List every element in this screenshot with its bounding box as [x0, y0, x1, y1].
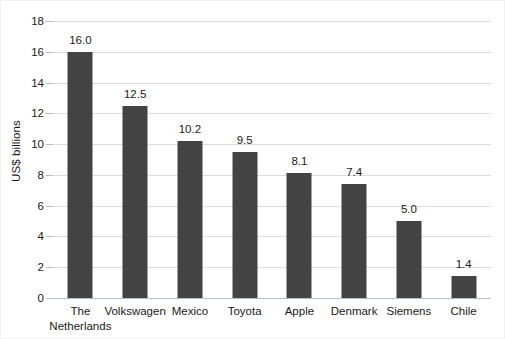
y-tick-label: 16: [9, 44, 53, 60]
bar-slot: 16.0: [53, 21, 108, 298]
x-axis-label: Volkswagen: [104, 304, 165, 319]
bar-value-label: 9.5: [237, 134, 253, 146]
x-axis-label-line: The: [70, 305, 90, 317]
x-axis-label-line: Mexico: [172, 305, 208, 317]
x-axis-label-line: Siemens: [387, 305, 432, 317]
bar[interactable]: [396, 221, 421, 298]
bar-value-label: 8.1: [291, 155, 307, 167]
bar-value-label: 12.5: [124, 88, 146, 100]
gridline-0: [53, 298, 491, 299]
y-tick-label: 0: [9, 290, 53, 306]
x-axis-labels-group: TheNetherlandsVolkswagenMexicoToyotaAppl…: [53, 300, 491, 339]
y-tick-label: 6: [9, 198, 53, 214]
x-axis-label-line: Volkswagen: [104, 305, 165, 317]
bar-slot: 12.5: [108, 21, 163, 298]
bar-value-label: 1.4: [456, 258, 472, 270]
x-axis-label: Chile: [451, 304, 477, 319]
bar[interactable]: [287, 173, 312, 298]
x-axis-label: Siemens: [387, 304, 432, 319]
bar[interactable]: [68, 52, 93, 298]
plot-area: 024681012141618 16.012.510.29.58.17.45.0…: [53, 21, 491, 298]
bar-slot: 8.1: [272, 21, 327, 298]
x-axis-label: Apple: [285, 304, 314, 319]
x-axis-label-line: Apple: [285, 305, 314, 317]
x-axis-label-line: Netherlands: [49, 319, 111, 334]
bar-value-label: 16.0: [69, 34, 91, 46]
y-tick-label: 14: [9, 75, 53, 91]
bar[interactable]: [342, 184, 367, 298]
bar-slot: 7.4: [327, 21, 382, 298]
y-tick-label: 4: [9, 228, 53, 244]
x-axis-label: Denmark: [331, 304, 378, 319]
bar-chart-figure: US$ billions 024681012141618 16.012.510.…: [0, 0, 505, 339]
bar-value-label: 7.4: [346, 166, 362, 178]
x-axis-label-line: Chile: [451, 305, 477, 317]
bar-slot: 1.4: [436, 21, 491, 298]
bars-group: 16.012.510.29.58.17.45.01.4: [53, 21, 491, 298]
y-tick-label: 10: [9, 136, 53, 152]
bar[interactable]: [123, 106, 148, 298]
bar-slot: 10.2: [163, 21, 218, 298]
y-tick-label: 18: [9, 13, 53, 29]
bar[interactable]: [232, 152, 257, 298]
bar-value-label: 5.0: [401, 203, 417, 215]
x-axis-label: Toyota: [228, 304, 262, 319]
x-axis-label: TheNetherlands: [49, 304, 111, 334]
bar-value-label: 10.2: [179, 123, 201, 135]
bar[interactable]: [451, 276, 476, 298]
x-axis-label-line: Toyota: [228, 305, 262, 317]
x-axis-label-line: Denmark: [331, 305, 378, 317]
y-tick-label: 12: [9, 105, 53, 121]
y-tick-label: 2: [9, 259, 53, 275]
x-axis-label: Mexico: [172, 304, 208, 319]
y-tick-label: 8: [9, 167, 53, 183]
bar-slot: 9.5: [217, 21, 272, 298]
bar[interactable]: [177, 141, 202, 298]
bar-slot: 5.0: [382, 21, 437, 298]
